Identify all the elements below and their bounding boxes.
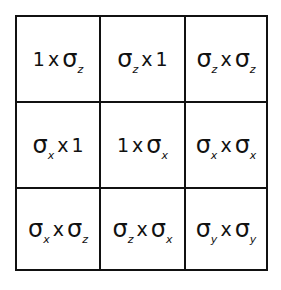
grid-cell-r2-c1: σx x 1 bbox=[17, 103, 101, 189]
operand-base: σ bbox=[151, 217, 166, 241]
operand-subscript: z bbox=[128, 233, 134, 246]
right-operand: σy bbox=[235, 217, 257, 241]
operand-subscript: x bbox=[162, 149, 169, 162]
grid-cell-r1-c3: σz x σz bbox=[186, 17, 266, 103]
operand-subscript: z bbox=[133, 63, 139, 76]
right-operand: 1 bbox=[71, 136, 83, 155]
grid-cell-r2-c3: σx x σx bbox=[186, 103, 266, 189]
times-operator: x bbox=[132, 134, 143, 156]
operand-base: σ bbox=[196, 47, 211, 71]
operand-base: σ bbox=[146, 133, 161, 157]
operand-base: σ bbox=[62, 47, 77, 71]
grid-cell-r3-c2: σz x σx bbox=[101, 189, 186, 269]
times-operator: x bbox=[220, 218, 231, 240]
operand-base: σ bbox=[235, 133, 250, 157]
left-operand: σx bbox=[196, 133, 218, 157]
operand-base: σ bbox=[117, 47, 132, 71]
times-operator: x bbox=[48, 48, 59, 70]
grid-cell-r3-c3: σy x σy bbox=[186, 189, 266, 269]
right-operand: σx bbox=[235, 133, 257, 157]
operand-base: σ bbox=[28, 217, 43, 241]
left-operand: 1 bbox=[33, 50, 45, 69]
grid-cell-r3-c1: σx x σz bbox=[17, 189, 101, 269]
right-operand: σx bbox=[146, 133, 168, 157]
operand-base: σ bbox=[196, 217, 211, 241]
right-operand: σz bbox=[62, 47, 83, 71]
operand-subscript: y bbox=[250, 233, 257, 246]
times-operator: x bbox=[220, 134, 231, 156]
operand-subscript: z bbox=[82, 233, 88, 246]
operand-subscript: z bbox=[212, 63, 218, 76]
right-operand: σz bbox=[235, 47, 256, 71]
times-operator: x bbox=[137, 218, 148, 240]
operand-base: σ bbox=[67, 217, 82, 241]
left-operand: σz bbox=[196, 47, 217, 71]
left-operand: σy bbox=[196, 217, 218, 241]
operand-subscript: x bbox=[250, 149, 257, 162]
grid-cell-r2-c2: 1 x σx bbox=[101, 103, 186, 189]
left-operand: σz bbox=[113, 217, 134, 241]
times-operator: x bbox=[220, 48, 231, 70]
operand-subscript: x bbox=[211, 149, 218, 162]
operand-subscript: x bbox=[48, 149, 55, 162]
right-operand: 1 bbox=[156, 50, 168, 69]
operand-base: σ bbox=[235, 217, 250, 241]
operand-subscript: y bbox=[211, 233, 218, 246]
left-operand: σx bbox=[28, 217, 50, 241]
operand-subscript: z bbox=[77, 63, 83, 76]
operand-subscript: x bbox=[166, 233, 173, 246]
times-operator: x bbox=[53, 218, 64, 240]
right-operand: σz bbox=[67, 217, 88, 241]
times-operator: x bbox=[141, 48, 152, 70]
operand-subscript: z bbox=[250, 63, 256, 76]
left-operand: σx bbox=[32, 133, 54, 157]
operator-grid: 1 x σz σz x 1 σz x σz σx x 1 1 x σx σx x… bbox=[15, 15, 268, 271]
operand-base: 1 bbox=[71, 136, 83, 155]
operand-base: 1 bbox=[117, 136, 129, 155]
right-operand: σx bbox=[151, 217, 173, 241]
left-operand: 1 bbox=[117, 136, 129, 155]
operand-base: σ bbox=[235, 47, 250, 71]
operand-base: 1 bbox=[156, 50, 168, 69]
grid-cell-r1-c1: 1 x σz bbox=[17, 17, 101, 103]
left-operand: σz bbox=[117, 47, 138, 71]
operand-base: 1 bbox=[33, 50, 45, 69]
operand-base: σ bbox=[196, 133, 211, 157]
operand-base: σ bbox=[113, 217, 128, 241]
grid-cell-r1-c2: σz x 1 bbox=[101, 17, 186, 103]
operand-base: σ bbox=[32, 133, 47, 157]
times-operator: x bbox=[57, 134, 68, 156]
operand-subscript: x bbox=[43, 233, 50, 246]
